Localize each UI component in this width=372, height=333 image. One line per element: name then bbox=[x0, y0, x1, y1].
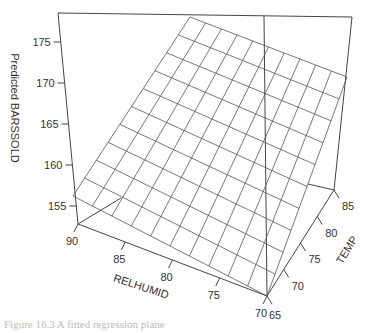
z-axis-title: Predicted BARSSOLD bbox=[9, 53, 21, 162]
y-tick-label: 70 bbox=[292, 280, 304, 292]
grid-line bbox=[120, 124, 299, 208]
x-tick-label: 70 bbox=[255, 307, 267, 319]
grid-line bbox=[209, 59, 300, 266]
x-tick bbox=[263, 296, 267, 304]
x-tick bbox=[216, 278, 220, 286]
x-tick bbox=[121, 242, 125, 250]
x-tick-label: 85 bbox=[113, 253, 125, 265]
grid-line bbox=[96, 160, 283, 252]
grid-line bbox=[132, 107, 308, 187]
y-tick-label: 75 bbox=[309, 253, 321, 265]
y-tick bbox=[267, 296, 272, 304]
y-tick bbox=[284, 270, 289, 278]
z-tick-label: 165 bbox=[40, 118, 58, 130]
z-tick-label: 175 bbox=[32, 36, 50, 48]
z-tick-label: 170 bbox=[36, 77, 54, 89]
grid-line bbox=[267, 77, 347, 296]
y-tick bbox=[334, 190, 339, 198]
y-axis-title: TEMP bbox=[333, 234, 359, 266]
z-axis: 155160165170175 bbox=[32, 36, 76, 212]
surface-plot: 155160165170175 9085807570 6570758085 Pr… bbox=[0, 0, 372, 333]
figure-caption: Figure 16.3 A fitted regression plane bbox=[4, 318, 165, 330]
y-tick-label: 85 bbox=[342, 200, 354, 212]
y-tick-label: 65 bbox=[269, 309, 281, 321]
y-tick-label: 80 bbox=[325, 227, 337, 239]
x-tick-label: 80 bbox=[160, 271, 172, 283]
z-tick-label: 160 bbox=[44, 159, 62, 171]
grid-line bbox=[189, 53, 284, 256]
y-tick bbox=[317, 217, 322, 225]
x-tick bbox=[74, 224, 78, 232]
x-axis: 9085807570 bbox=[66, 224, 267, 319]
x-tick-label: 90 bbox=[66, 235, 78, 247]
z-tick-label: 155 bbox=[48, 200, 66, 212]
y-tick bbox=[301, 243, 306, 251]
grid-line bbox=[108, 142, 291, 230]
x-tick-label: 75 bbox=[208, 289, 220, 301]
x-tick bbox=[169, 260, 173, 268]
